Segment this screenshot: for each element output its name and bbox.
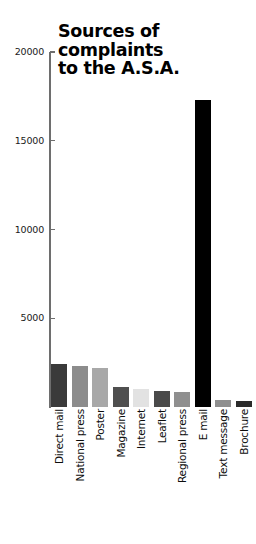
x-tick-label: Regional press bbox=[176, 409, 188, 483]
x-tick-label-slot: Regional press bbox=[174, 409, 190, 539]
bar bbox=[72, 366, 88, 407]
x-tick-label-slot: Direct mail bbox=[51, 409, 67, 539]
x-tick-label: Brochure bbox=[238, 409, 250, 455]
bar-slot bbox=[133, 52, 149, 407]
bar bbox=[92, 368, 108, 407]
x-axis-label-group: Direct mailNational pressPosterMagazineI… bbox=[51, 409, 256, 539]
x-tick-label-slot: Magazine bbox=[113, 409, 129, 539]
x-tick-label-slot: Leaflet bbox=[154, 409, 170, 539]
x-tick-label-slot: National press bbox=[72, 409, 88, 539]
bar bbox=[51, 364, 67, 407]
x-tick-label-slot: Internet bbox=[133, 409, 149, 539]
bar-slot bbox=[236, 52, 252, 407]
bar-slot bbox=[174, 52, 190, 407]
bar bbox=[154, 391, 170, 407]
bar-slot bbox=[72, 52, 88, 407]
bar bbox=[215, 400, 231, 407]
x-tick-label: Leaflet bbox=[156, 409, 168, 443]
y-tick-label: 10000 bbox=[0, 224, 44, 235]
bar bbox=[174, 392, 190, 407]
x-tick-label: Poster bbox=[94, 409, 106, 441]
x-tick-label-slot: E mail bbox=[195, 409, 211, 539]
y-tick-label: 20000 bbox=[0, 46, 44, 57]
x-tick-label: Text message bbox=[217, 409, 229, 478]
bar-slot bbox=[51, 52, 67, 407]
bar-slot bbox=[92, 52, 108, 407]
x-tick-label: Magazine bbox=[115, 409, 127, 458]
bar bbox=[133, 389, 149, 407]
bar-slot bbox=[154, 52, 170, 407]
x-tick-label-slot: Poster bbox=[92, 409, 108, 539]
plot-area bbox=[51, 52, 256, 407]
bar-slot bbox=[113, 52, 129, 407]
x-tick-label: National press bbox=[74, 409, 86, 481]
bar-slot bbox=[215, 52, 231, 407]
bar-slot bbox=[195, 52, 211, 407]
y-tick-label: 5000 bbox=[0, 312, 44, 323]
x-tick-label-slot: Text message bbox=[215, 409, 231, 539]
bar-chart: Sources of complaints to the A.S.A. 2000… bbox=[0, 0, 256, 544]
x-tick-label: Direct mail bbox=[53, 409, 65, 464]
bar bbox=[113, 387, 129, 407]
x-tick-label: Internet bbox=[135, 409, 147, 449]
x-tick-label: E mail bbox=[197, 409, 209, 440]
bar bbox=[195, 100, 211, 407]
bar bbox=[236, 401, 252, 407]
y-tick-label: 15000 bbox=[0, 135, 44, 146]
x-tick-label-slot: Brochure bbox=[236, 409, 252, 539]
